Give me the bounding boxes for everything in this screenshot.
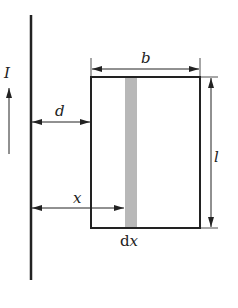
- rectangular-loop: [91, 77, 200, 228]
- b-label: b: [141, 49, 151, 67]
- l-label: l: [214, 148, 219, 166]
- shaded-strip-dx: [125, 78, 137, 227]
- dx-label: dx: [120, 232, 139, 250]
- x-label: x: [73, 189, 82, 207]
- wire-loop-diagram: I b l d x dx: [0, 0, 238, 308]
- current-label: I: [3, 64, 11, 82]
- d-label: d: [55, 102, 65, 120]
